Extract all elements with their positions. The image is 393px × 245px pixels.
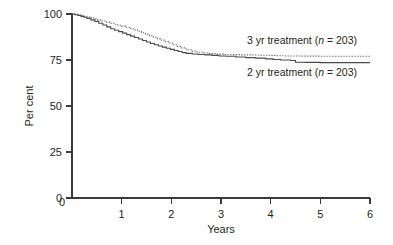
y-tick-label: 25 [50, 146, 62, 158]
x-tick-label: 2 [168, 208, 174, 220]
x-tick-label: 5 [317, 208, 323, 220]
x-axis-title: Years [207, 223, 235, 235]
y-axis-title: Per cent [23, 86, 35, 127]
y-axis-ticks [66, 14, 72, 198]
x-axis-ticks [122, 198, 370, 204]
x-axis-tick-labels: 0123456 [59, 196, 373, 220]
legend-label-3yr: 3 yr treatment (n = 203) [247, 34, 357, 46]
legend-label-2yr: 2 yr treatment (n = 203) [247, 66, 357, 78]
x-tick-label: 0 [59, 196, 65, 208]
y-tick-label: 100 [44, 8, 62, 20]
x-tick-label: 3 [218, 208, 224, 220]
y-axis-tick-labels: 0255075100 [44, 8, 62, 204]
x-tick-label: 1 [119, 208, 125, 220]
survival-chart: 0255075100 0123456 Per cent Years 3 yr t… [0, 0, 393, 245]
y-tick-label: 75 [50, 54, 62, 66]
x-tick-label: 4 [268, 208, 274, 220]
x-tick-label: 6 [367, 208, 373, 220]
chart-canvas: 0255075100 0123456 Per cent Years 3 yr t… [0, 0, 393, 245]
y-tick-label: 50 [50, 100, 62, 112]
